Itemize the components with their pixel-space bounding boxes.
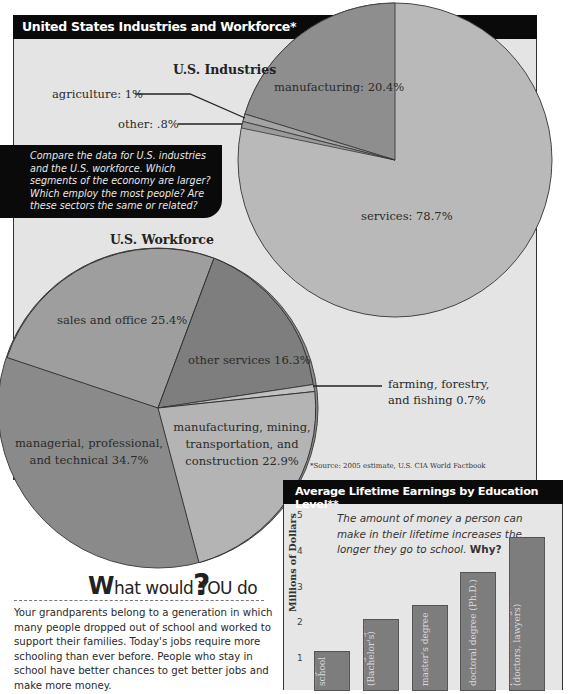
farming-label-2: and fishing 0.7% xyxy=(388,393,486,407)
industries-title: U.S. Industries xyxy=(173,62,276,77)
dashed-divider xyxy=(14,600,264,601)
manufacturing-mining-label: manufacturing, mining, transportation, a… xyxy=(172,419,312,470)
y-axis-label: Millions of Dollars xyxy=(287,513,298,612)
earnings-note-why: Why? xyxy=(470,543,502,555)
agriculture-leader-line xyxy=(135,94,245,118)
y-tick-3: 3 xyxy=(297,582,303,592)
question-mark-icon: ? xyxy=(193,567,210,602)
managerial-label: managerial, professional, and technical … xyxy=(14,435,164,469)
wwyd-body-text: Your grandparents belong to a generation… xyxy=(14,606,282,694)
managerial-line-1: managerial, professional, xyxy=(14,435,164,452)
manufacturing-mining-line-3: construction 22.9% xyxy=(172,453,312,470)
sales-office-label: sales and office 25.4% xyxy=(57,313,187,327)
other-services-label: other services 16.3% xyxy=(188,353,311,367)
what-would-you-do-title: What would YOU do xyxy=(88,572,257,600)
y-tick-1: 1 xyxy=(297,653,303,663)
bar-label-professional-2: (doctors, lawyers) xyxy=(512,604,522,686)
y-tick-4: 4 xyxy=(297,546,303,556)
bar-doctoral: doctoral degree (Ph.D.) xyxy=(460,572,496,691)
farming-label-1: farming, forestry, xyxy=(388,377,489,391)
bar-high-school: highschool xyxy=(314,651,350,691)
manufacturing-mining-line-2: transportation, and xyxy=(172,436,312,453)
earnings-note: The amount of money a person can make in… xyxy=(337,511,532,558)
bar-label-college-2: (Bachelor's) xyxy=(366,631,376,686)
callout-text: Compare the data for U.S. industries and… xyxy=(30,150,220,213)
workforce-title: U.S. Workforce xyxy=(110,232,214,247)
bar-college: College degree(Bachelor's) xyxy=(363,619,399,691)
wwyd-title-initial: W xyxy=(88,572,114,600)
services-label: services: 78.7% xyxy=(361,209,453,223)
bar-label-masters: master's degree xyxy=(420,612,430,686)
earnings-title: Average Lifetime Earnings by Education L… xyxy=(295,485,575,511)
manufacturing-label: manufacturing: 20.4% xyxy=(274,80,404,94)
other-label: other: .8% xyxy=(118,117,179,131)
source-footnote: *Source: 2005 estimate, U.S. CIA World F… xyxy=(310,462,486,470)
bar-label-doctoral: doctoral degree (Ph.D.) xyxy=(468,579,478,686)
y-tick-5: 5 xyxy=(297,510,303,520)
workforce-pie xyxy=(0,248,318,568)
bar-label-high-school-2: school xyxy=(317,657,327,686)
y-tick-2: 2 xyxy=(297,617,303,627)
manufacturing-mining-line-1: manufacturing, mining, xyxy=(172,419,312,436)
wwyd-title-rest: hat would YOU do xyxy=(114,578,257,598)
bar-masters: master's degree xyxy=(412,605,448,691)
bar-professional: professional degree(doctors, lawyers) xyxy=(509,537,545,691)
agriculture-label: agriculture: 1% xyxy=(52,87,143,101)
industries-pie xyxy=(238,3,552,317)
managerial-line-2: and technical 34.7% xyxy=(14,452,164,469)
